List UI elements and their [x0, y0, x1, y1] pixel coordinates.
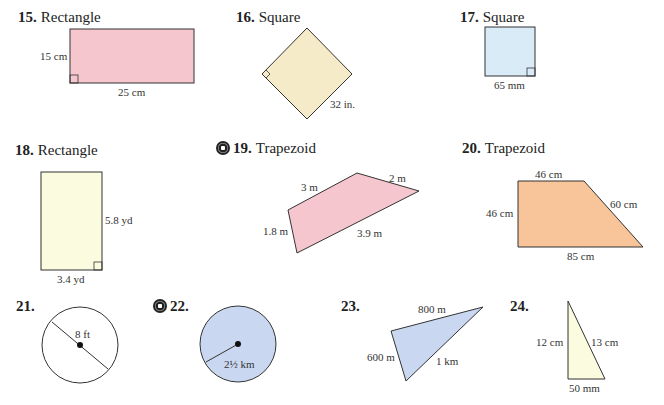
- problem-18-title: 18.Rectangle: [15, 142, 98, 159]
- dim-label: 12 cm: [536, 336, 563, 348]
- dim-label: 32 in.: [330, 98, 355, 110]
- dim-label: 600 m: [367, 351, 395, 363]
- dim-label: 60 cm: [610, 198, 637, 210]
- dim-label: 65 mm: [494, 79, 525, 91]
- cd-icon: [216, 141, 230, 155]
- dim-label: 46 cm: [535, 168, 562, 180]
- figures-canvas: [0, 0, 664, 405]
- dim-label: 800 m: [418, 303, 446, 315]
- dim-label: 1.8 m: [263, 225, 288, 237]
- square-17: [485, 27, 535, 76]
- problem-19-title: 19.Trapezoid: [216, 140, 316, 157]
- problem-15-title: 15.Rectangle: [18, 9, 101, 26]
- dim-label: 3 m: [301, 181, 318, 193]
- dim-label: 1 km: [436, 355, 458, 367]
- dim-label: 2 m: [389, 172, 406, 184]
- trapezoid-20: [518, 181, 643, 247]
- dim-label: 85 cm: [567, 250, 594, 262]
- rectangle-15: [70, 29, 194, 83]
- problem-24-title: 24.: [510, 298, 533, 315]
- dim-label: 5.8 yd: [105, 214, 133, 226]
- dim-label: 25 cm: [118, 86, 145, 98]
- dim-label: 15 cm: [40, 50, 67, 62]
- problem-23-title: 23.: [341, 298, 364, 315]
- problem-20-title: 20.Trapezoid: [462, 140, 545, 157]
- problem-22-title: 22.: [153, 298, 193, 315]
- dim-label: 8 ft: [75, 328, 90, 340]
- problem-17-title: 17.Square: [460, 9, 524, 26]
- triangle-23: [391, 307, 483, 381]
- dim-label: 46 cm: [486, 207, 513, 219]
- dim-label: 50 mm: [569, 382, 600, 394]
- dim-label: 3.9 m: [357, 227, 382, 239]
- dim-label: 3.4 yd: [57, 273, 85, 285]
- dim-label: 2½ km: [224, 358, 255, 370]
- cd-icon: [153, 299, 167, 313]
- problem-16-title: 16.Square: [236, 9, 300, 26]
- problem-21-title: 21.: [16, 298, 39, 315]
- dim-label: 13 cm: [591, 336, 618, 348]
- rectangle-18: [41, 172, 102, 270]
